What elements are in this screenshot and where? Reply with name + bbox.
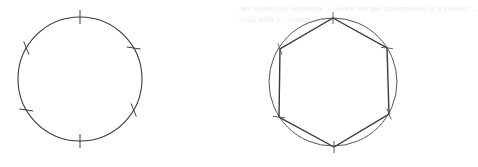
right-hexagon-figure <box>269 12 397 153</box>
hexagon <box>279 18 389 147</box>
circumscribed-circle <box>269 18 397 146</box>
left-circle-figure <box>18 10 142 148</box>
vertex-arc-mark <box>273 116 285 117</box>
circle <box>18 17 142 141</box>
